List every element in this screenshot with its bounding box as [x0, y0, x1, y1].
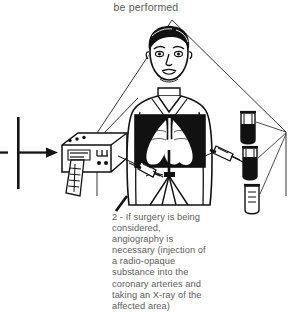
contrast-vials: [240, 112, 286, 214]
caption-line: taking an X-ray of the: [112, 290, 220, 301]
caption-line: 2 - If surgery is being: [112, 212, 220, 223]
caption-line: angiography is: [112, 234, 220, 245]
caption-leader-line: [116, 196, 127, 211]
caption-block: 2 - If surgery is being considered, angi…: [112, 212, 220, 312]
caption-line: coronary arteries and: [112, 279, 220, 290]
caption-line: necessary (injection of: [112, 245, 220, 256]
patient-figure: [127, 26, 212, 205]
flow-arrow: [0, 148, 58, 158]
caption-line: considered,: [112, 223, 220, 234]
caption-line: affected area): [112, 301, 220, 312]
caption-line: a radio-opaque: [112, 256, 220, 267]
caption-line: substance into the: [112, 267, 220, 278]
